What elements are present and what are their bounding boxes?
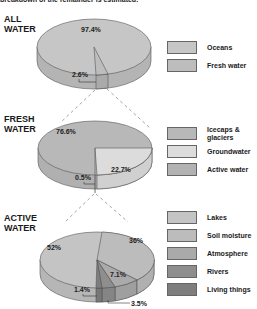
legend-label: Soil moisture [207,232,257,240]
swatch [167,247,197,260]
legend-label: Rivers [207,268,257,276]
pie-fresh-water: 0.5% 22.7% 76.6% [38,121,152,193]
swatch [167,127,197,140]
legend-label: Oceans [207,44,257,52]
label-lakes-pct: 52% [47,244,62,251]
swatch [167,265,197,278]
label-atmosphere-pct: 7.1% [110,271,127,278]
label-groundwater-pct: 22.7% [111,166,132,173]
swatch [167,163,197,176]
swatch [167,229,197,242]
label-fresh-pct: 2.6% [72,71,89,78]
label-living-pct: 1.4% [74,286,91,293]
legend-label: Atmosphere [207,250,257,258]
legend-label: Groundwater [207,148,257,156]
swatch [167,59,197,72]
legend-label: Fresh water [207,62,257,70]
label-rivers-pct: 3.5% [131,300,148,307]
legend-label: Icecaps & glaciers [207,126,257,142]
label-oceans-pct: 97.4% [81,26,102,33]
legend-label: Active water [207,166,257,174]
swatch [167,283,197,296]
label-icecaps-pct: 76.6% [56,128,77,135]
label-active-pct: 0.5% [75,174,92,181]
label-soil-pct: 36% [129,237,144,244]
legend-label: Lakes [207,214,257,222]
pie-active-water: 1.4% 3.5% 7.1% 36% 52% [40,232,154,307]
pie-all-water: 2.6% 97.4% [37,19,151,89]
legend-label: Living things [207,286,257,294]
swatch [167,211,197,224]
swatch [167,145,197,158]
swatch [167,41,197,54]
